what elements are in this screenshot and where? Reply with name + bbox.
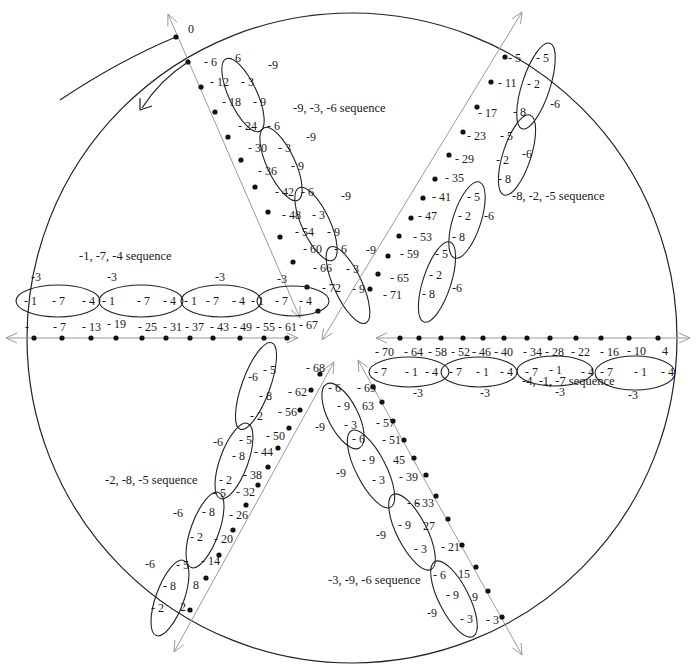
- group-digit: - 4: [500, 365, 513, 379]
- point-label: 45: [393, 453, 405, 467]
- point-label: - 58: [428, 345, 447, 359]
- point-marker: [501, 335, 506, 340]
- group-digit: - 8: [232, 449, 245, 463]
- point-marker: [420, 195, 425, 200]
- group-digit: - 9: [253, 95, 266, 109]
- group-sum: -9: [366, 243, 376, 257]
- point-label: - 36: [258, 164, 277, 178]
- group-digit: - 5: [263, 363, 276, 377]
- point-label: - 23: [467, 129, 486, 143]
- group-digit: - 5: [467, 190, 480, 204]
- group-digit: - 4: [299, 294, 312, 308]
- point-marker: [265, 464, 270, 469]
- point-label: - 49: [233, 320, 252, 334]
- point-marker: [396, 233, 401, 238]
- point-label: - 47: [418, 209, 437, 223]
- point-label: - 39: [399, 470, 418, 484]
- point-marker: [367, 286, 372, 291]
- point-label: 63: [362, 399, 374, 413]
- group-digit: - 2: [527, 77, 540, 91]
- point-label: - 19: [107, 317, 126, 331]
- group-sum: -6: [452, 281, 462, 295]
- group-sum: -9: [306, 130, 316, 144]
- group-digit: - 8: [163, 579, 176, 593]
- point-label: - 61: [278, 320, 297, 334]
- digit-group: - 5- 8- 2-6: [143, 556, 197, 641]
- group-digit: - 7: [206, 294, 219, 308]
- point-marker: [502, 54, 507, 59]
- group-digit: - 7: [374, 365, 387, 379]
- sequence-caption: -4, -1, -7 sequence: [522, 374, 615, 388]
- group-digit: - 5: [176, 558, 189, 572]
- group-digit: - 5: [536, 51, 549, 65]
- group-sum: -9: [315, 420, 325, 434]
- ray-left: -- 7- 13- 19- 25- 31- 37- 43- 49- 55- 61…: [6, 249, 329, 343]
- group-sum: -6: [173, 506, 183, 520]
- group-digit: - 9: [362, 453, 375, 467]
- group-digit: - 3: [278, 141, 291, 155]
- group-digit: - 1: [184, 294, 197, 308]
- point-label: - 53: [413, 230, 432, 244]
- point-label: - 55: [256, 320, 275, 334]
- group-sum: -9: [341, 189, 351, 203]
- group-digit: - 1: [405, 365, 418, 379]
- group-sum: -6: [248, 370, 258, 384]
- digit-group: - 5- 2- 8-6: [491, 111, 544, 200]
- group-sum: -9: [376, 528, 386, 542]
- group-sum: -9: [336, 466, 346, 480]
- point-marker: [626, 335, 631, 340]
- point-label: 27: [423, 519, 435, 533]
- point-marker: [275, 445, 280, 450]
- group-sum: -3: [107, 270, 117, 284]
- point-marker: [88, 335, 93, 340]
- digit-sequence-wheel: 0- 6- 12- 18- 24- 30- 36- 42- 48- 54- 60…: [0, 0, 699, 670]
- digit-group: - 1- 7- 4-3: [181, 270, 261, 317]
- group-digit: - 2: [219, 473, 232, 487]
- group-sum: -6: [145, 557, 155, 571]
- point-label: 9: [472, 590, 478, 604]
- point-marker: [524, 335, 529, 340]
- point-label: - 43: [210, 320, 229, 334]
- point-label: - 28: [545, 345, 564, 359]
- point-marker: [59, 335, 64, 340]
- group-sum: -3: [277, 272, 287, 286]
- point-marker: [265, 209, 270, 214]
- group-digit: - 8: [513, 105, 526, 119]
- point-marker: [460, 129, 465, 134]
- point-marker: [185, 59, 190, 64]
- group-digit: - 3: [414, 542, 427, 556]
- point-label: - 13: [82, 320, 101, 334]
- point-label: - 31: [163, 320, 182, 334]
- point-marker: [290, 259, 295, 264]
- point-label: - 11: [498, 76, 517, 90]
- point-marker: [212, 109, 217, 114]
- point-label: -: [25, 320, 29, 334]
- group-digit: - 8: [452, 230, 465, 244]
- point-marker: [187, 607, 192, 612]
- point-marker: [432, 176, 437, 181]
- group-digit: - 9: [446, 588, 459, 602]
- point-marker: [473, 564, 478, 569]
- group-sum: -6: [550, 97, 560, 111]
- group-digit: - 6: [352, 432, 365, 446]
- point-marker: [163, 335, 168, 340]
- ray-down-right: - 6963- 57- 5145- 39- 3327- 21159- 3- 6-…: [313, 360, 522, 655]
- point-marker: [252, 184, 257, 189]
- group-digit: - 6: [407, 496, 420, 510]
- group-digit: - 2: [496, 153, 509, 167]
- point-marker: [139, 335, 144, 340]
- sequence-caption: -3, -9, -6 sequence: [328, 573, 421, 587]
- group-digit: - 1: [102, 294, 115, 308]
- point-marker: [379, 399, 384, 404]
- point-label: - 59: [400, 247, 419, 261]
- point-label: - 22: [571, 345, 590, 359]
- group-sum: -6: [522, 147, 532, 161]
- group-digit: - 9: [352, 282, 365, 296]
- point-marker: [460, 335, 465, 340]
- point-label: - 32: [236, 485, 255, 499]
- point-marker: [598, 335, 603, 340]
- group-sum: -6: [213, 435, 223, 449]
- point-marker: [238, 157, 243, 162]
- point-marker: [297, 407, 302, 412]
- point-label: - 3: [486, 613, 499, 627]
